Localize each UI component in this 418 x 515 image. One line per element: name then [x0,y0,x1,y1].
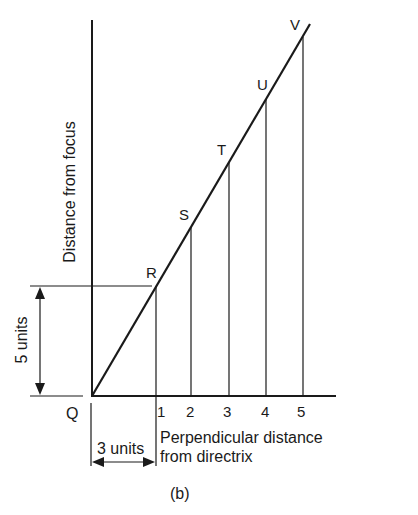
point-label-t: T [217,142,226,157]
point-label-r: R [146,265,157,280]
x-axis-label-line2: from directrix [160,449,252,465]
dim-horizontal-label: 3 units [97,441,144,457]
y-axis-label: Distance from focus [62,121,78,262]
arrowhead-left [92,457,104,467]
distance-line [92,24,310,396]
x-tick-1: 1 [157,404,165,419]
x-tick-3: 3 [223,404,231,419]
figure-caption: (b) [170,486,190,502]
x-tick-4: 4 [261,404,269,419]
point-label-v: V [290,17,300,32]
dim-vertical-label: 5 units [14,316,30,363]
x-tick-2: 2 [186,404,194,419]
point-label-s: S [179,207,189,222]
point-label-u: U [257,77,268,92]
arrowhead-up [35,287,45,299]
x-tick-5: 5 [297,404,305,419]
x-axis-label-line1: Perpendicular distance [160,430,323,446]
arrowhead-right [143,457,155,467]
arrowhead-down [35,383,45,395]
origin-label: Q [66,406,78,422]
